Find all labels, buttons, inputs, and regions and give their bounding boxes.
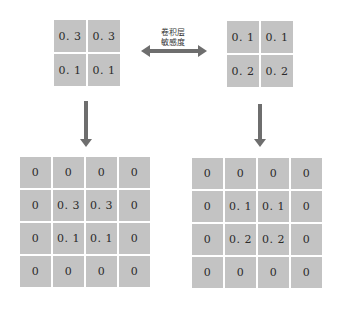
grid-cell: 0 [291, 257, 322, 288]
down-arrow-icon [84, 101, 88, 140]
grid-cell: 0 [119, 223, 150, 254]
grid-cell: 0 [291, 224, 322, 255]
grid-cell: 0 [225, 257, 256, 288]
grid-cell: 0 [225, 158, 256, 189]
grid-cell: 0. 1 [86, 223, 117, 254]
label-line-1: 卷积层 [143, 28, 203, 38]
grid-cell: 0 [119, 157, 150, 188]
grid-cell: 0. 1 [261, 21, 293, 53]
grid-cell: 0 [86, 157, 117, 188]
grid-cell: 0 [20, 157, 51, 188]
grid-cell: 0 [192, 158, 223, 189]
grid-cell: 0 [192, 257, 223, 288]
grid-cell: 0. 3 [88, 20, 120, 52]
grid-cell: 0. 1 [54, 54, 86, 86]
bottom-right-upsampled-grid: 0 0 0 0 0 0. 1 0. 1 0 0 0. 2 0. 2 0 0 0 … [192, 158, 322, 288]
grid-cell: 0. 2 [261, 55, 293, 87]
down-arrow-icon [258, 104, 262, 140]
grid-cell: 0. 3 [86, 190, 117, 221]
grid-cell: 0. 1 [227, 21, 259, 53]
grid-cell: 0 [258, 257, 289, 288]
conv-layer-sensitivity-label: 卷积层 敏感度 [143, 28, 203, 48]
bottom-left-upsampled-grid: 0 0 0 0 0 0. 3 0. 3 0 0 0. 1 0. 1 0 0 0 … [20, 157, 150, 287]
grid-cell: 0. 2 [225, 224, 256, 255]
grid-cell: 0 [119, 256, 150, 287]
grid-cell: 0 [258, 158, 289, 189]
grid-cell: 0 [20, 223, 51, 254]
grid-cell: 0 [192, 191, 223, 222]
grid-cell: 0 [53, 256, 84, 287]
grid-cell: 0. 1 [88, 54, 120, 86]
grid-cell: 0. 2 [258, 224, 289, 255]
grid-cell: 0. 3 [54, 20, 86, 52]
grid-cell: 0 [291, 191, 322, 222]
grid-cell: 0 [86, 256, 117, 287]
grid-cell: 0. 1 [53, 223, 84, 254]
top-right-sensitivity-grid: 0. 1 0. 1 0. 2 0. 2 [227, 21, 293, 87]
grid-cell: 0. 2 [227, 55, 259, 87]
double-headed-arrow-icon [149, 49, 199, 53]
grid-cell: 0. 1 [225, 191, 256, 222]
label-line-2: 敏感度 [143, 38, 203, 48]
grid-cell: 0 [291, 158, 322, 189]
grid-cell: 0 [192, 224, 223, 255]
grid-cell: 0. 1 [258, 191, 289, 222]
top-left-sensitivity-grid: 0. 3 0. 3 0. 1 0. 1 [54, 20, 120, 86]
grid-cell: 0. 3 [53, 190, 84, 221]
grid-cell: 0 [119, 190, 150, 221]
grid-cell: 0 [20, 190, 51, 221]
grid-cell: 0 [53, 157, 84, 188]
grid-cell: 0 [20, 256, 51, 287]
